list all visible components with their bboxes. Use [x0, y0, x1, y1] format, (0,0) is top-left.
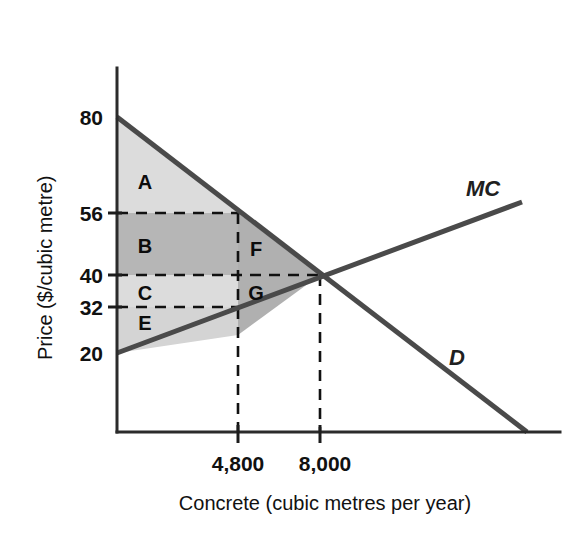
x-tick-label-8000: 8,000	[299, 452, 352, 475]
region-label-c: C	[138, 282, 152, 304]
x-tick-labels: 4,800 8,000	[212, 452, 352, 475]
region-c-shape	[117, 275, 238, 307]
mc-curve-label: MC	[466, 176, 501, 201]
demand-curve-label: D	[449, 345, 465, 370]
region-label-f: F	[250, 238, 262, 260]
curve-labels: MC D	[449, 176, 501, 370]
y-tick-label-80: 80	[80, 106, 103, 129]
region-label-g: G	[248, 282, 264, 304]
y-tick-label-56: 56	[80, 202, 103, 225]
economics-chart: 80 56 40 32 20 4,800 8,000 A B C E F G M…	[0, 0, 582, 543]
chart-canvas: 80 56 40 32 20 4,800 8,000 A B C E F G M…	[0, 0, 582, 543]
region-b-shape	[117, 213, 238, 275]
y-tick-labels: 80 56 40 32 20	[80, 106, 103, 365]
x-axis-title: Concrete (cubic metres per year)	[179, 492, 471, 514]
x-tick-label-4800: 4,800	[212, 452, 265, 475]
y-tick-label-40: 40	[80, 264, 103, 287]
y-axis-title: Price ($/cubic metre)	[34, 176, 56, 361]
region-label-a: A	[138, 171, 152, 193]
region-label-e: E	[138, 312, 151, 334]
y-tick-label-32: 32	[80, 296, 103, 319]
y-tick-label-20: 20	[80, 342, 103, 365]
region-label-b: B	[138, 235, 152, 257]
